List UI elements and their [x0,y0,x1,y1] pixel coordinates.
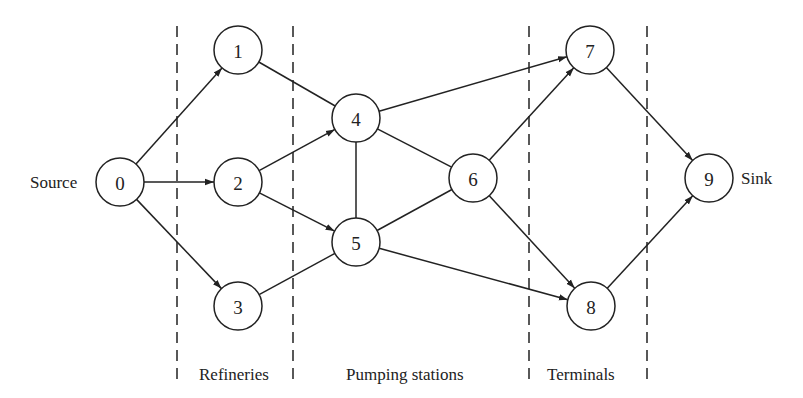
node-label: 0 [115,173,125,194]
pipeline-network-diagram: 0123456789 Source Sink Refineries Pumpin… [0,0,803,398]
arrow-4-to-7 [379,57,567,112]
node-label: 6 [468,169,478,190]
node-label: 5 [351,233,361,254]
node-3: 3 [214,282,262,330]
arrow-6-to-7 [489,68,574,161]
node-label: 7 [585,41,595,62]
node-4: 4 [332,94,380,142]
sink-label: Sink [741,169,773,188]
node-label: 8 [586,297,596,318]
node-label: 9 [704,169,714,190]
node-label: 4 [351,109,361,130]
edge-4-to-6 [377,129,451,167]
edge-3-to-5 [259,253,335,294]
node-0: 0 [96,158,144,206]
arrow-8-to-9 [607,196,692,289]
refineries-label: Refineries [199,365,269,384]
arrow-2-to-4 [259,129,335,170]
pumping-stations-label: Pumping stations [346,365,464,384]
node-6: 6 [449,154,497,202]
arrow-7-to-9 [606,68,692,161]
node-5: 5 [332,218,380,266]
node-label: 3 [233,297,243,318]
node-label: 1 [233,41,243,62]
arrow-0-to-1 [136,68,222,164]
arrow-5-to-8 [379,248,568,299]
nodes: 0123456789 [96,26,733,330]
node-9: 9 [685,154,733,202]
arrow-6-to-8 [489,196,574,289]
edge-5-to-6 [377,190,452,231]
node-8: 8 [567,282,615,330]
node-2: 2 [214,158,262,206]
source-label: Source [30,173,77,192]
node-7: 7 [566,26,614,74]
arrow-0-to-3 [137,199,222,288]
node-label: 2 [233,173,243,194]
node-1: 1 [214,26,262,74]
terminals-label: Terminals [547,365,615,384]
arrow-2-to-5 [259,193,334,231]
edge-1-to-4 [259,62,335,106]
